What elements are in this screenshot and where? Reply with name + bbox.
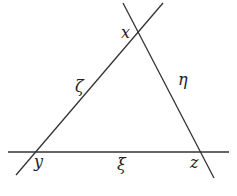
line-label-eta: η [178, 70, 188, 89]
line-label-zeta: ζ [75, 77, 85, 96]
line-label-xi: ξ [117, 155, 127, 174]
vertex-label-y: y [33, 152, 44, 171]
triangle-diagram: x y z ζ η ξ [0, 0, 237, 196]
line-zeta [16, 3, 163, 175]
vertex-label-x: x [121, 23, 130, 42]
vertex-label-z: z [189, 153, 199, 172]
